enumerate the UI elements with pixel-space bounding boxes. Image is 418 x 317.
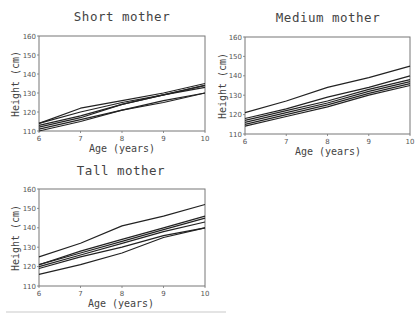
y-tick-label: 120 (229, 111, 242, 119)
y-axis-label: Height (cm) (10, 51, 21, 117)
x-tick-label: 8 (325, 138, 329, 146)
series-line (245, 76, 410, 119)
x-axis-title: Age (years) (89, 143, 155, 154)
series-line (245, 80, 410, 121)
series-line (39, 218, 205, 265)
series-line (39, 87, 205, 125)
x-tick-label: 9 (161, 290, 165, 298)
series-line (39, 84, 205, 124)
x-tick-label: 7 (78, 290, 82, 298)
chart-title: Medium mother (276, 10, 380, 25)
x-tick-label: 10 (406, 138, 415, 146)
chart-medium-mother: Medium mother Height (cm) 11012013014015… (210, 0, 418, 160)
series-line (39, 228, 205, 275)
series-line (39, 205, 205, 257)
x-tick-label: 9 (161, 135, 165, 143)
x-tick-label: 8 (120, 290, 124, 298)
y-tick-label: 140 (229, 72, 242, 80)
chart-short-mother: Short mother Height (cm) 110120130140150… (0, 0, 210, 160)
chart-title: Short mother (74, 9, 170, 24)
y-tick-label: 140 (23, 71, 36, 79)
x-tick-label: 7 (78, 135, 82, 143)
x-tick-label: 6 (37, 290, 42, 298)
y-tick-label: 150 (23, 205, 36, 213)
x-tick-label: 7 (284, 138, 288, 146)
plot-frame (39, 189, 205, 286)
series-line (39, 222, 205, 267)
y-tick-label: 120 (23, 109, 36, 117)
x-ticks: 678910 (37, 131, 210, 143)
y-ticks: 110120130140150160 (23, 186, 39, 291)
chart-tall-mother: Tall mother Height (cm) 1101201301401501… (0, 155, 210, 317)
x-axis-title: Age (years) (295, 146, 361, 157)
y-tick-label: 130 (23, 244, 36, 252)
series-line (39, 85, 205, 127)
series-line (245, 84, 410, 125)
y-tick-label: 110 (23, 283, 36, 291)
x-tick-label: 10 (201, 135, 210, 143)
y-ticks: 110120130140150160 (23, 33, 39, 136)
series-line (39, 93, 205, 131)
y-tick-label: 160 (23, 186, 36, 194)
y-axis-label: Height (cm) (10, 205, 21, 271)
x-ticks: 678910 (37, 286, 210, 298)
scan-artifact-bar (6, 311, 226, 313)
y-tick-label: 150 (23, 52, 36, 60)
y-axis-label: Height (cm) (217, 53, 228, 119)
y-axis-title: Height (cm) (10, 51, 21, 117)
panel-medium-mother: Medium mother Height (cm) 11012013014015… (210, 0, 418, 160)
y-tick-label: 120 (23, 263, 36, 271)
y-tick-label: 130 (23, 90, 36, 98)
x-tick-label: 8 (120, 135, 124, 143)
x-tick-label: 6 (37, 135, 42, 143)
panel-short-mother: Short mother Height (cm) 110120130140150… (0, 0, 210, 160)
series-lines (39, 84, 205, 132)
chart-title: Tall mother (77, 163, 165, 178)
series-lines (39, 205, 205, 275)
y-ticks: 110120130140150160 (229, 34, 245, 139)
y-tick-label: 110 (23, 128, 36, 136)
x-tick-label: 6 (243, 138, 248, 146)
x-tick-label: 10 (201, 290, 210, 298)
y-tick-label: 110 (229, 131, 242, 139)
panel-tall-mother: Tall mother Height (cm) 1101201301401501… (0, 155, 210, 317)
y-axis-title: Height (cm) (10, 205, 21, 271)
y-axis-title: Height (cm) (217, 53, 228, 119)
series-lines (245, 66, 410, 126)
y-tick-label: 150 (229, 53, 242, 61)
x-tick-label: 9 (367, 138, 371, 146)
x-ticks: 678910 (243, 134, 415, 146)
y-tick-label: 160 (229, 34, 242, 42)
y-tick-label: 160 (23, 33, 36, 41)
x-axis-title: Age (years) (88, 298, 154, 309)
y-tick-label: 130 (229, 92, 242, 100)
y-tick-label: 140 (23, 224, 36, 232)
